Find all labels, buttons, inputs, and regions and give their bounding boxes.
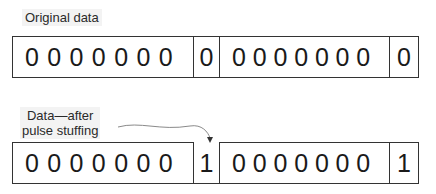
stuffed-bit-group-1: 0 0 0 0 0 0 0	[12, 142, 194, 184]
bit: 0	[356, 149, 377, 178]
bit: 0	[114, 149, 136, 178]
stuffed-data-frame: 0 0 0 0 0 0 0 1 0 0 0 0 0 0 0 1	[12, 142, 419, 184]
bit: 0	[315, 149, 336, 178]
bit: 0	[253, 149, 274, 178]
bit: 0	[25, 149, 47, 178]
bit: 0	[294, 149, 315, 178]
bit: 0	[70, 149, 92, 178]
bit: 0	[92, 149, 114, 178]
bit: 0	[336, 149, 357, 178]
stuffed-bit: 1	[194, 149, 219, 178]
stuffed-bit-slot-2: 1	[389, 142, 419, 184]
stuffed-bit-group-2: 0 0 0 0 0 0 0	[219, 142, 390, 184]
stuffed-bit: 1	[390, 149, 418, 178]
stuffed-bit-slot-1: 1	[193, 142, 220, 184]
bit: 0	[47, 149, 69, 178]
bit: 0	[136, 149, 158, 178]
bit: 0	[273, 149, 294, 178]
bit: 0	[232, 149, 253, 178]
bit: 0	[159, 149, 181, 178]
